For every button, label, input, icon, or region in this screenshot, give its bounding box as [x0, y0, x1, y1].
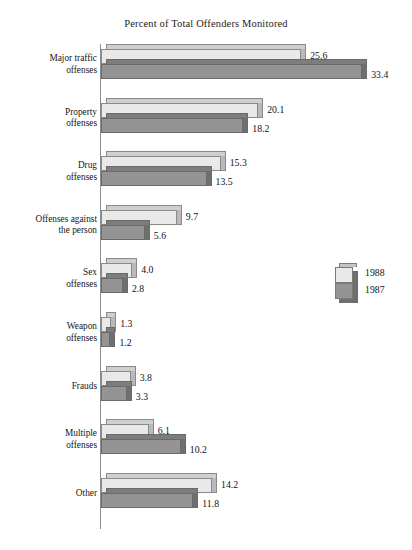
value-label-1988: 4.0	[141, 264, 153, 275]
category-label: Propertyoffenses	[0, 107, 97, 130]
category-label: Offenses againstthe person	[0, 214, 97, 237]
bar-face	[101, 439, 181, 454]
category-label-line: Sex	[0, 267, 97, 279]
category-label-line: offenses	[0, 172, 97, 184]
value-label-1987: 2.8	[132, 283, 144, 294]
category-label: Other	[0, 488, 97, 500]
category-label-line: Major traffic	[0, 53, 97, 65]
bar-face	[101, 332, 110, 347]
value-label-1987: 1.2	[119, 337, 131, 348]
category-label: Major trafficoffenses	[0, 53, 97, 76]
category-label-line: Multiple	[0, 428, 97, 440]
category-label-line: Property	[0, 107, 97, 119]
value-label-1988: 9.7	[186, 211, 198, 222]
bar-face	[101, 225, 145, 240]
bar-face	[101, 118, 243, 133]
legend-swatch-1987	[335, 283, 353, 299]
value-label-1988: 14.2	[221, 479, 238, 490]
category-label-line: the person	[0, 225, 97, 237]
bar-1987	[101, 493, 193, 508]
bar-1987	[101, 278, 123, 293]
legend-label-1988: 1988	[365, 267, 385, 278]
bar-1987	[101, 225, 145, 240]
value-label-1987: 11.8	[202, 498, 219, 509]
bar-face	[101, 278, 123, 293]
category-label-line: Weapon	[0, 321, 97, 333]
bar-1987	[101, 439, 181, 454]
value-label-1988: 1.3	[120, 318, 132, 329]
category-label: Weaponoffenses	[0, 321, 97, 344]
legend-swatch-side	[353, 271, 358, 303]
category-label-line: offenses	[0, 65, 97, 77]
category-label-line: offenses	[0, 118, 97, 130]
value-label-1987: 18.2	[252, 123, 269, 134]
value-label-1987: 33.4	[371, 69, 388, 80]
bar-face	[101, 493, 193, 508]
legend-swatch	[335, 267, 353, 299]
bar-1987	[101, 64, 362, 79]
value-label-1987: 13.5	[216, 176, 233, 187]
value-label-1987: 5.6	[154, 230, 166, 241]
legend-swatch-1988	[335, 267, 353, 283]
category-label-line: Other	[0, 488, 97, 500]
legend-label-1987: 1987	[365, 284, 385, 295]
bar-face	[101, 386, 127, 401]
category-label-line: Offenses against	[0, 214, 97, 226]
category-label-line: Frauds	[0, 381, 97, 393]
category-label-line: offenses	[0, 440, 97, 452]
bar-1987	[101, 171, 207, 186]
category-label: Sexoffenses	[0, 267, 97, 290]
chart-page: Percent of Total Offenders Monitored Maj…	[0, 0, 412, 550]
category-label-line: Drug	[0, 160, 97, 172]
value-label-1988: 20.1	[267, 104, 284, 115]
value-label-1988: 6.1	[158, 425, 170, 436]
bar-1987	[101, 332, 110, 347]
bar-face	[101, 64, 362, 79]
category-label: Drugoffenses	[0, 160, 97, 183]
bar-1987	[101, 386, 127, 401]
category-label-line: offenses	[0, 333, 97, 345]
value-label-1987: 10.2	[190, 444, 207, 455]
value-label-1988: 15.3	[230, 157, 247, 168]
bar-face	[101, 171, 207, 186]
category-label: Frauds	[0, 381, 97, 393]
category-label: Multipleoffenses	[0, 428, 97, 451]
value-label-1988: 25.6	[310, 50, 327, 61]
bar-1987	[101, 118, 243, 133]
value-label-1988: 3.8	[140, 372, 152, 383]
category-label-line: offenses	[0, 279, 97, 291]
value-label-1987: 3.3	[136, 391, 148, 402]
